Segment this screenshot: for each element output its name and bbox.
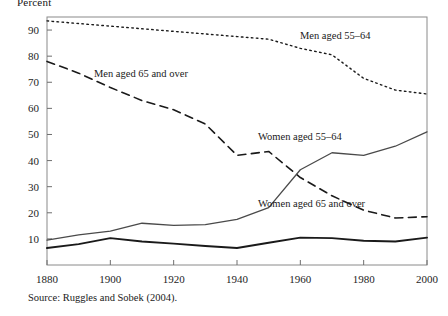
plot-frame [47, 17, 427, 265]
x-tick-label: 1960 [289, 273, 312, 285]
x-tick-label: 2000 [416, 273, 439, 285]
y-tick-label: 70 [28, 76, 40, 88]
y-tick-label: 90 [28, 24, 40, 36]
y-tick-label: 20 [28, 207, 40, 219]
y-tick-label: 60 [28, 102, 40, 114]
series-label-3: Women aged 65 and over [258, 198, 366, 209]
series-label-0: Men aged 55–64 [300, 30, 371, 41]
chart-figure: Percent 10203040506070809018801900192019… [0, 0, 448, 316]
x-tick-label: 1900 [99, 273, 122, 285]
chart-plot: 1020304050607080901880190019201940196019… [0, 0, 448, 316]
y-tick-label: 30 [28, 181, 40, 193]
x-tick-label: 1940 [226, 273, 249, 285]
source-note: Source: Ruggles and Sobek (2004). [28, 292, 177, 303]
series-label-1: Men aged 65 and over [94, 68, 188, 79]
y-tick-label: 10 [28, 233, 40, 245]
y-tick-label: 40 [28, 155, 40, 167]
series-line-3 [47, 238, 427, 248]
series-line-1 [47, 61, 427, 218]
series-label-2: Women aged 55–64 [258, 131, 342, 142]
y-tick-label: 80 [28, 50, 40, 62]
x-tick-label: 1880 [36, 273, 59, 285]
y-tick-label: 50 [28, 128, 40, 140]
x-tick-label: 1920 [163, 273, 186, 285]
x-tick-label: 1980 [353, 273, 376, 285]
series-line-2 [47, 132, 427, 240]
